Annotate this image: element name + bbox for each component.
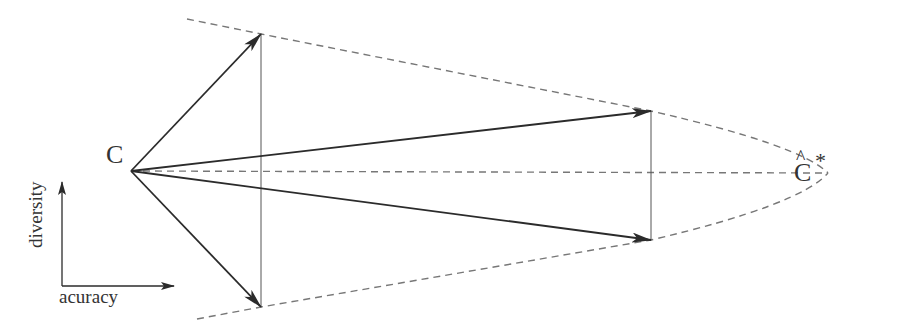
star-symbol: * xyxy=(815,148,826,174)
axis-x-label: acuracy xyxy=(59,286,118,308)
axis-y-label: diversity xyxy=(25,182,47,249)
diagram-canvas xyxy=(0,0,915,333)
envelope-curve-top xyxy=(187,19,828,173)
target-label: ^ C * xyxy=(794,158,811,188)
arrow-top-right xyxy=(131,111,651,171)
arrow-top-left xyxy=(131,34,261,171)
center-dashed-line xyxy=(131,171,828,173)
origin-label: C xyxy=(106,140,123,170)
hat-symbol: ^ xyxy=(796,146,805,169)
envelope-curve-bottom xyxy=(197,173,828,319)
arrow-bottom-right xyxy=(131,171,651,240)
